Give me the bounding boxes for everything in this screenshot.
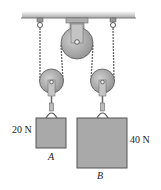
block-a	[36, 118, 66, 148]
block-b	[77, 118, 127, 168]
movable-left-pulley	[40, 69, 64, 96]
block-b-label: B	[97, 170, 103, 181]
movable-right-pulley	[91, 69, 115, 96]
block-a-label: A	[48, 151, 54, 162]
block-b-hanger	[97, 96, 108, 118]
pulley-diagram	[0, 0, 161, 190]
ceiling	[21, 11, 136, 18]
block-a-hanger	[46, 96, 57, 118]
right-anchor-hook	[110, 18, 116, 28]
left-anchor-hook	[37, 18, 43, 28]
fixed-top-pulley	[61, 24, 93, 59]
block-b-weight-label: 40 N	[130, 134, 150, 145]
block-a-weight-label: 20 N	[12, 124, 32, 135]
